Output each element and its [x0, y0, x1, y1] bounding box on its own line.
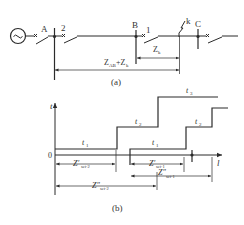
breaker-c-icon: [206, 34, 222, 43]
fault-label-k: k: [186, 16, 191, 26]
fault-marker-icon: [190, 150, 193, 162]
bus-label-a: A: [41, 24, 48, 34]
breaker-2-icon: [62, 34, 77, 43]
svg-text:Z′: Z′: [73, 159, 79, 168]
svg-text:t: t: [195, 117, 198, 126]
svg-text:set·1: set·1: [166, 174, 175, 179]
svg-text:2: 2: [199, 122, 202, 127]
caption-b: (b): [112, 203, 123, 213]
svg-text:set·2: set·2: [81, 164, 90, 169]
svg-text:1: 1: [86, 143, 89, 148]
relay-protection-diagram: A 2 B 1 k C: [0, 0, 244, 225]
caption-a: (a): [111, 77, 121, 87]
bus-label-b: B: [132, 20, 138, 30]
breaker-1-icon: [142, 34, 158, 43]
svg-text:Z′: Z′: [149, 159, 155, 168]
svg-text:3: 3: [190, 91, 193, 96]
zset2-dprime-dimension: Z″ set·2: [56, 172, 157, 191]
svg-text:k: k: [126, 63, 129, 68]
svg-text:1: 1: [156, 143, 159, 148]
svg-text:t: t: [82, 138, 85, 147]
breaker-a-icon: [34, 34, 48, 44]
svg-text:+Z: +Z: [116, 58, 126, 67]
bus-label-c: C: [195, 19, 201, 29]
svg-text:k: k: [158, 50, 161, 55]
zset1-dprime-dimension: Z″ set·1: [131, 157, 212, 182]
zab-zk-dimension: Z AB +Z k: [55, 58, 179, 70]
zk-dimension: Z k: [137, 45, 179, 58]
fault-icon: [179, 21, 185, 37]
time-distance-characteristic: t l 0 t 1 t 2 t 3 t 1 t 2 Z′ set·2: [48, 86, 228, 213]
origin-label: 0: [48, 151, 52, 160]
svg-text:t: t: [135, 117, 138, 126]
one-line-diagram: A 2 B 1 k C: [11, 16, 239, 87]
svg-text:2: 2: [139, 122, 142, 127]
svg-text:set·2: set·2: [100, 186, 109, 191]
svg-text:t: t: [152, 138, 155, 147]
t-axis-label: t: [50, 101, 53, 111]
l-axis-label: l: [217, 158, 220, 168]
svg-text:t: t: [186, 86, 189, 95]
zset2-prime-dimension: Z′ set·2: [56, 150, 116, 172]
breaker-label-2: 2: [61, 23, 66, 33]
stair-protection-1: [130, 108, 228, 165]
breaker-label-1: 1: [146, 25, 151, 35]
generator-icon: [11, 29, 26, 44]
